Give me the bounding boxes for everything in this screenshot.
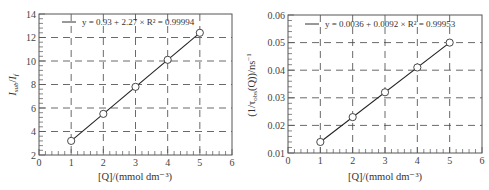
data-point (349, 114, 356, 121)
x-tick-label: 4 (415, 155, 420, 166)
y-axis-label: Isub/If (7, 73, 20, 97)
x-tick-label: 3 (133, 157, 138, 168)
x-tick-labels: 0123456 (37, 157, 235, 168)
x-tick-label: 1 (69, 157, 74, 168)
y-tick-label: 8 (31, 79, 36, 90)
y-tick-label: 0.02 (268, 120, 286, 131)
plot-frame (288, 15, 482, 153)
y-tick-label: 0.03 (268, 92, 286, 103)
minor-ticks (288, 15, 482, 153)
data-point (164, 56, 171, 63)
x-axis-label: [Q]/(mmol dm⁻³) (98, 171, 173, 183)
x-tick-label: 4 (165, 157, 170, 168)
legend: y = 0.93 + 2.27 × R² = 0.99994 (62, 17, 195, 27)
data-point (100, 110, 107, 117)
data-point (132, 83, 139, 90)
legend-text: y = 0.93 + 2.27 × R² = 0.99994 (82, 17, 195, 27)
x-tick-label: 1 (318, 155, 323, 166)
chart-left: 0123456 2468101214 y = 0.93 + 2.27 × R² … (7, 9, 235, 184)
y-tick-label: 4 (31, 126, 36, 137)
x-tick-label: 5 (447, 155, 452, 166)
y-tick-label: 2 (31, 150, 36, 161)
y-tick-label: 12 (26, 32, 36, 43)
x-tick-label: 6 (230, 157, 235, 168)
y-tick-label: 0.04 (268, 65, 286, 76)
legend: y = 0.0036 + 0.0092 × R² = 0.99953 (305, 19, 456, 29)
data-point (414, 64, 421, 71)
x-tick-label: 0 (286, 155, 291, 166)
x-tick-label: 2 (350, 155, 355, 166)
y-tick-labels: 0.010.020.030.040.050.06 (268, 10, 286, 159)
data-point (446, 39, 453, 46)
data-point (381, 89, 388, 96)
x-axis-label: [Q]/(mmol dm⁻³) (348, 171, 423, 183)
x-tick-label: 2 (101, 157, 106, 168)
y-tick-label: 6 (31, 103, 36, 114)
grid-lines (288, 15, 482, 153)
y-tick-label: 14 (26, 9, 36, 20)
y-axis-label: (1/τobs(Q))/ns−1 (245, 53, 259, 117)
y-tick-label: 0.01 (268, 148, 286, 159)
data-point (317, 138, 324, 145)
x-tick-label: 3 (383, 155, 388, 166)
data-point (68, 137, 75, 144)
figure-canvas: 0123456 2468101214 y = 0.93 + 2.27 × R² … (0, 0, 489, 190)
x-tick-label: 5 (197, 157, 202, 168)
y-tick-label: 0.05 (268, 37, 286, 48)
x-tick-labels: 0123456 (286, 155, 485, 166)
y-tick-label: 10 (26, 56, 36, 67)
legend-text: y = 0.0036 + 0.0092 × R² = 0.99953 (325, 19, 456, 29)
y-tick-label: 0.06 (268, 10, 286, 21)
y-tick-labels: 2468101214 (26, 9, 36, 161)
chart-right: 0123456 0.010.020.030.040.050.06 y = 0.0… (245, 10, 485, 184)
x-tick-label: 0 (37, 157, 42, 168)
x-tick-label: 6 (480, 155, 485, 166)
data-point (196, 29, 203, 36)
